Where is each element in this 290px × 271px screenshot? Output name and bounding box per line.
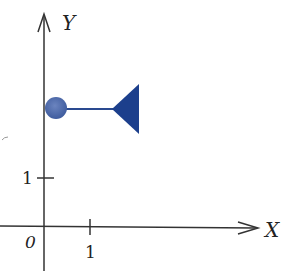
y-axis-label: Y (62, 11, 77, 35)
stray-mark (2, 137, 8, 140)
triangle-shape (112, 84, 139, 134)
x-tick-label: 1 (85, 242, 96, 262)
origin-label: 0 (25, 232, 36, 252)
y-tick-label: 1 (22, 168, 33, 188)
circle-shape (45, 97, 67, 119)
y-axis (38, 14, 50, 271)
x-axis-label: X (263, 218, 280, 242)
x-axis (0, 222, 258, 234)
diagram-canvas: Y X 0 1 1 (0, 0, 290, 271)
